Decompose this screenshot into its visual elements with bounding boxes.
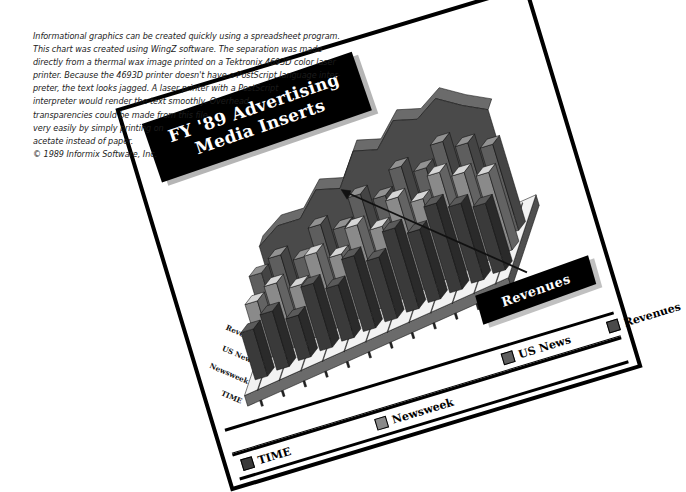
legend-swatch-revenues — [606, 319, 621, 334]
depth-axis-label: Newsweek — [208, 361, 251, 386]
caption-line: very easily by simply printing on — [33, 122, 301, 135]
axis-tick — [303, 381, 307, 387]
caption-line: acetate instead of paper. — [33, 135, 301, 148]
caption-line: directly from a thermal wax image printe… — [33, 56, 301, 69]
legend-label-revenues: Revenues — [622, 300, 682, 329]
legend-swatch-time — [240, 456, 255, 471]
axis-tick — [346, 361, 350, 367]
axis-tick — [260, 400, 264, 406]
caption-block: Informational graphics can be created qu… — [33, 30, 301, 161]
depth-axis-label-group: Newsweek — [208, 361, 251, 386]
depth-axis-label-group: TIME — [220, 389, 244, 406]
axis-tick — [411, 332, 415, 338]
axis-tick — [325, 371, 329, 377]
axis-tick — [433, 323, 437, 329]
axis-tick — [368, 352, 372, 358]
axis-tick — [281, 390, 285, 396]
legend-item-time[interactable]: TIME — [240, 444, 292, 471]
axis-tick — [389, 342, 393, 348]
caption-line: transparencies could be made from this f… — [33, 109, 301, 122]
caption-line: This chart was created using WingZ softw… — [33, 43, 301, 56]
caption-line: Informational graphics can be created qu… — [33, 30, 301, 43]
axis-tick — [454, 313, 458, 319]
legend-swatch-newsweek — [374, 416, 389, 431]
caption-line: preter, the text looks jagged. A laser p… — [33, 82, 301, 95]
caption-line: printer. Because the 4693D printer doesn… — [33, 69, 301, 82]
copyright-line: © 1989 Informix Software, Inc. — [33, 148, 301, 161]
caption-line: interpreter would render the text smooth… — [33, 95, 301, 108]
depth-axis-label: TIME — [220, 389, 244, 406]
legend-swatch-us-news — [501, 350, 516, 365]
legend-label-time: TIME — [256, 444, 292, 466]
